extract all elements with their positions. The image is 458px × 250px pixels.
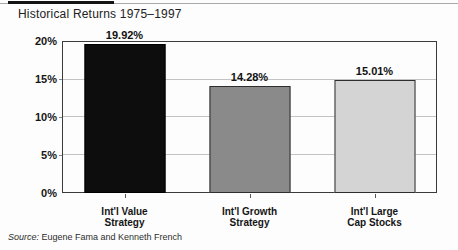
figure-container: Historical Returns 1975–1997 0%5%10%15%2… <box>0 0 458 250</box>
y-tick-mark <box>59 79 62 80</box>
source-prefix: Source: <box>8 232 39 242</box>
source-text: Eugene Fama and Kenneth French <box>39 232 182 242</box>
x-category-label: Int'l Large Cap Stocks <box>312 206 437 228</box>
chart-title: Historical Returns 1975–1997 <box>18 7 182 21</box>
bar <box>334 80 415 193</box>
x-axis: Int'l Value StrategyInt'l Growth Strateg… <box>62 193 437 233</box>
x-tick <box>375 194 376 198</box>
y-tick-label: 0% <box>0 187 57 199</box>
bar-row: 19.92%14.28%15.01% <box>62 41 437 193</box>
x-category-label: Int'l Growth Strategy <box>187 206 312 228</box>
y-tick-mark <box>59 117 62 118</box>
y-axis: 0%5%10%15%20% <box>0 41 57 193</box>
source-line: Source: Eugene Fama and Kenneth French <box>8 232 182 242</box>
bar <box>84 44 165 193</box>
x-category-label: Int'l Value Strategy <box>62 206 187 228</box>
bar-value-label: 14.28% <box>187 71 312 83</box>
bar-slot: 19.92% <box>62 41 187 193</box>
header-rule-accent <box>8 1 114 4</box>
y-tick-label: 20% <box>0 35 57 47</box>
bar-slot: 15.01% <box>312 41 437 193</box>
bar-value-label: 19.92% <box>62 29 187 41</box>
x-tick <box>125 194 126 198</box>
y-tick-label: 15% <box>0 73 57 85</box>
y-tick-mark <box>59 155 62 156</box>
y-tick-label: 5% <box>0 149 57 161</box>
y-tick-label: 10% <box>0 111 57 123</box>
bar-value-label: 15.01% <box>312 65 437 77</box>
x-tick <box>250 194 251 198</box>
bar <box>209 86 290 193</box>
bar-slot: 14.28% <box>187 41 312 193</box>
